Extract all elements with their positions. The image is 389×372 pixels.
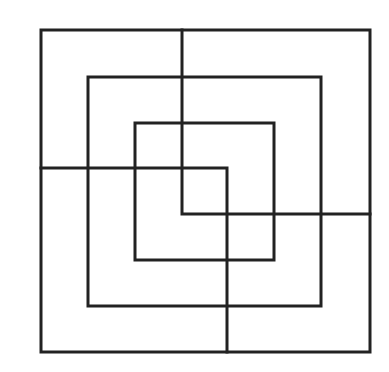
line-diagram bbox=[0, 0, 389, 372]
middle-square bbox=[88, 77, 321, 306]
nested-squares bbox=[41, 30, 370, 352]
inner-square bbox=[135, 123, 274, 260]
